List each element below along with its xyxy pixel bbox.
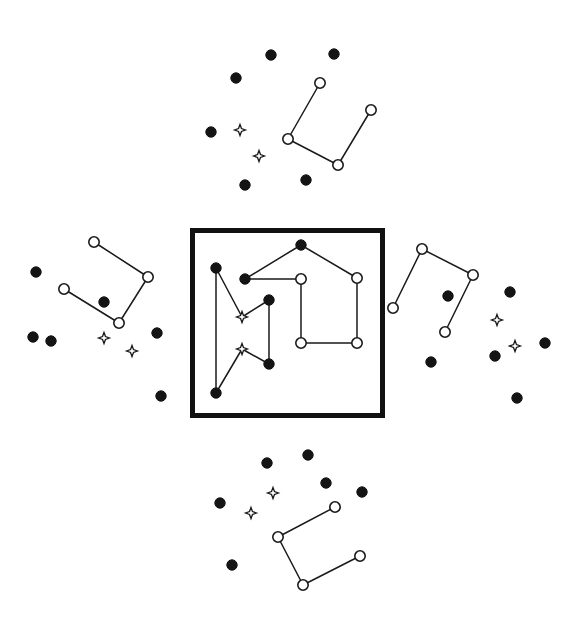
- filled-dot-star: [505, 287, 515, 297]
- open-circle-star: [298, 580, 308, 590]
- open-circle-star: [283, 134, 293, 144]
- filled-dot-star: [211, 263, 221, 273]
- filled-dot-star: [426, 357, 436, 367]
- filled-dot-star: [301, 175, 311, 185]
- filled-dot-star: [227, 560, 237, 570]
- filled-dot-star: [240, 274, 250, 284]
- open-circle-star: [114, 318, 124, 328]
- constellation-diagram: [0, 0, 581, 622]
- filled-dot-star: [540, 338, 550, 348]
- filled-dot-star: [156, 391, 166, 401]
- filled-dot-star: [231, 73, 241, 83]
- filled-dot-star: [264, 295, 274, 305]
- open-circle-star: [143, 272, 153, 282]
- open-circle-star: [468, 270, 478, 280]
- filled-dot-star: [215, 498, 225, 508]
- open-circle-star: [89, 237, 99, 247]
- open-circle-star: [296, 338, 306, 348]
- filled-dot-star: [303, 450, 313, 460]
- filled-dot-star: [152, 328, 162, 338]
- filled-dot-star: [512, 393, 522, 403]
- filled-dot-star: [31, 267, 41, 277]
- filled-dot-star: [211, 388, 221, 398]
- open-circle-star: [315, 78, 325, 88]
- filled-dot-star: [490, 351, 500, 361]
- open-circle-star: [352, 273, 362, 283]
- open-circle-star: [59, 284, 69, 294]
- filled-dot-star: [262, 458, 272, 468]
- open-circle-star: [388, 303, 398, 313]
- open-circle-star: [417, 244, 427, 254]
- filled-dot-star: [240, 180, 250, 190]
- figure-root: [0, 0, 581, 622]
- filled-dot-star: [28, 332, 38, 342]
- filled-dot-star: [99, 297, 109, 307]
- filled-dot-star: [357, 487, 367, 497]
- filled-dot-star: [443, 291, 453, 301]
- open-circle-star: [355, 551, 365, 561]
- filled-dot-star: [264, 359, 274, 369]
- open-circle-star: [366, 105, 376, 115]
- open-circle-star: [352, 338, 362, 348]
- filled-dot-star: [206, 127, 216, 137]
- open-circle-star: [440, 327, 450, 337]
- filled-dot-star: [329, 49, 339, 59]
- open-circle-star: [330, 502, 340, 512]
- filled-dot-star: [321, 478, 331, 488]
- canvas-background: [0, 0, 581, 622]
- open-circle-star: [296, 274, 306, 284]
- filled-dot-star: [296, 240, 306, 250]
- filled-dot-star: [46, 336, 56, 346]
- filled-dot-star: [266, 50, 276, 60]
- open-circle-star: [273, 532, 283, 542]
- open-circle-star: [333, 160, 343, 170]
